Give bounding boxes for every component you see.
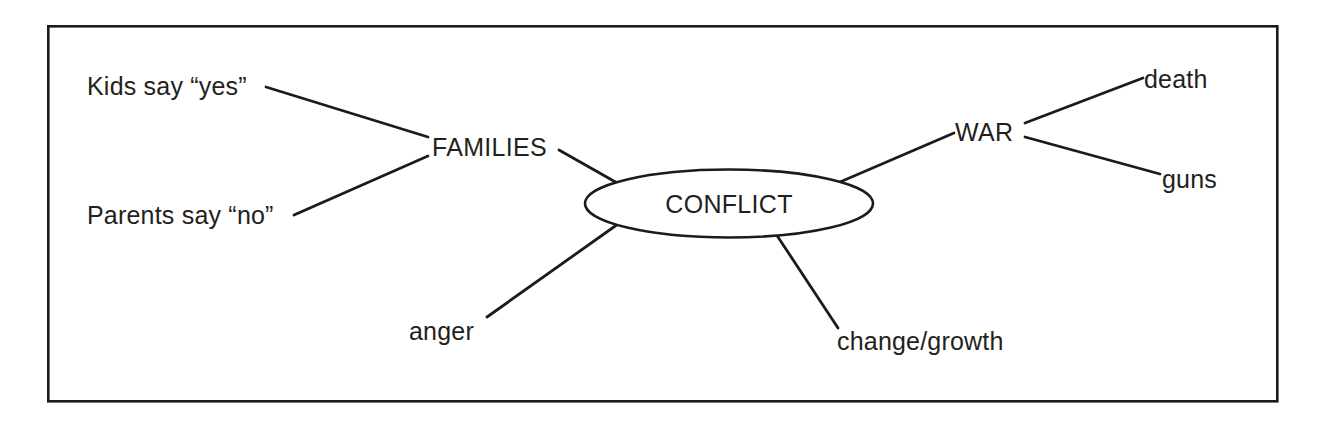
link-war-to-guns <box>1025 137 1160 174</box>
leaf-label-kids-yes: Kids say “yes” <box>87 72 247 100</box>
branch-label-families: FAMILIES <box>432 133 547 161</box>
concept-map-svg: CONFLICT FAMILIES WAR Kids say “yes” Par… <box>0 0 1318 422</box>
leaf-label-change-growth: change/growth <box>837 327 1004 355</box>
link-war-to-death <box>1025 78 1143 123</box>
leaf-label-death: death <box>1144 65 1208 93</box>
link-kids-yes-to-families <box>266 87 428 137</box>
link-conflict-to-war <box>840 133 954 182</box>
leaf-label-parents-no: Parents say “no” <box>87 201 274 229</box>
link-conflict-to-anger <box>487 224 618 317</box>
concept-map-canvas: CONFLICT FAMILIES WAR Kids say “yes” Par… <box>0 0 1318 422</box>
link-parents-no-to-families <box>294 156 428 215</box>
leaf-label-guns: guns <box>1162 165 1217 193</box>
link-families-to-conflict <box>559 150 619 184</box>
center-node-label: CONFLICT <box>665 190 792 218</box>
leaf-label-anger: anger <box>409 317 474 345</box>
link-conflict-to-change-growth <box>776 234 838 328</box>
branch-label-war: WAR <box>955 118 1013 146</box>
